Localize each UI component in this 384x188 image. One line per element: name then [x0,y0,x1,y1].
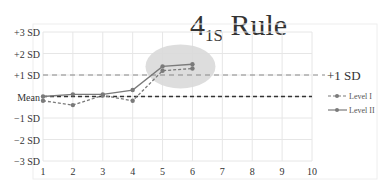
plus-1sd-label: +1 SD [327,68,361,83]
y-tick-label: −3 SD [14,156,40,167]
data-point [71,103,75,107]
y-tick-label: −2 SD [14,135,40,146]
legend-label: Level II [349,106,375,115]
data-point [160,69,164,73]
y-tick-label: +3 SD [14,27,40,38]
x-tick-label: 2 [70,166,75,177]
legend-marker [335,94,339,98]
y-tick-label: −1 SD [14,113,40,124]
x-tick-label: 9 [280,166,285,177]
qc-chart: +3 SD+2 SD+1 SDMean−1 SD−2 SD−3 SD123456… [0,0,384,188]
y-tick-label: Mean [17,92,40,103]
legend-label: Level I [349,92,372,101]
data-point [190,62,194,66]
data-point [160,64,164,68]
x-tick-label: 6 [190,166,195,177]
x-tick-label: 10 [307,166,317,177]
data-point [71,92,75,96]
data-point [41,99,45,103]
data-point [190,66,194,70]
y-tick-label: +1 SD [14,70,40,81]
y-tick-label: +2 SD [14,49,40,60]
x-tick-label: 5 [160,166,165,177]
legend-marker [335,108,339,112]
data-point [130,88,134,92]
x-tick-label: 7 [220,166,225,177]
x-tick-label: 8 [250,166,255,177]
highlight-ellipse [145,44,215,88]
data-point [101,92,105,96]
x-tick-label: 4 [130,166,135,177]
x-tick-label: 1 [41,166,46,177]
data-point [130,99,134,103]
data-point [41,94,45,98]
x-tick-label: 3 [100,166,105,177]
